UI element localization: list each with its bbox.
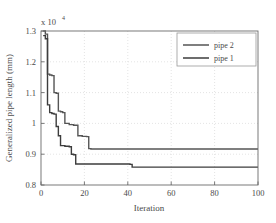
line-chart: 020406080100 0.80.911.11.21.3 x 10 4 Ite… [0,0,276,223]
x-tick-label: 80 [210,188,219,198]
legend[interactable]: pipe 2pipe 1 [177,33,256,66]
x-axis-title: Iteration [134,203,165,213]
x-tick-label: 0 [39,188,43,198]
y-axis-title: Generalized pipe length (mm) [4,54,14,162]
y-tick-label: 1.3 [25,26,36,36]
y-tick-label: 0.9 [25,149,36,159]
y-tick-label: 1.2 [25,57,36,67]
y-multiplier-base: x 10 [41,17,56,27]
y-tick-label: 1.1 [25,88,36,98]
y-tick-label: 0.8 [25,180,36,190]
x-tick-label: 20 [80,188,89,198]
legend-label-pipe-1: pipe 1 [214,54,234,63]
x-tick-label: 100 [252,188,265,198]
y-multiplier-exponent: 4 [62,15,65,21]
y-tick-label: 1 [32,118,36,128]
legend-label-pipe-2: pipe 2 [214,41,234,50]
chart-figure: 020406080100 0.80.911.11.21.3 x 10 4 Ite… [0,0,276,223]
y-axis-multiplier: x 10 4 [41,15,65,27]
y-axis-tick-labels: 0.80.911.11.21.3 [25,26,36,190]
x-tick-label: 60 [167,188,176,198]
x-tick-label: 40 [124,188,133,198]
x-axis-tick-labels: 020406080100 [39,188,265,198]
